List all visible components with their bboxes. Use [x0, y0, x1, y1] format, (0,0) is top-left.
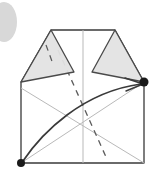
page-corner-smudge-icon [0, 2, 17, 42]
vertex-dot-bottom-left [17, 159, 25, 167]
vertex-dot-right [140, 78, 149, 87]
origami-diagram [0, 0, 160, 181]
origami-figure-container: Origami fold step diagram [0, 0, 160, 181]
